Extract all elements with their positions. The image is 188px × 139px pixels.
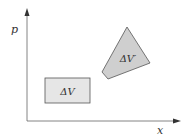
region-delta-v-prime-label: ΔV′: [119, 53, 137, 64]
x-axis-arrow-icon: [173, 119, 181, 124]
region-delta-v-label: ΔV: [59, 86, 76, 97]
y-axis-arrow-icon: [25, 8, 30, 16]
phase-space-diagram: p x ΔV ΔV′: [0, 0, 188, 139]
x-axis-label: x: [157, 124, 164, 137]
y-axis-label: p: [11, 23, 18, 36]
